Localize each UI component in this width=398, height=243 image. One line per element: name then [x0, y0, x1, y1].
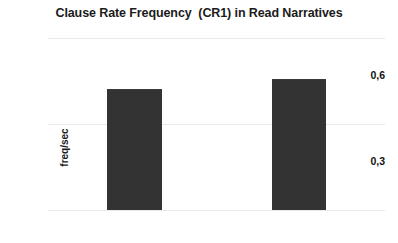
plot-area: 0 0,3 0,6 freq/sec Depressed Control	[48, 38, 385, 211]
gridline-0-6	[48, 38, 385, 39]
y-axis-title: freq/sec	[59, 118, 70, 178]
page-title: Clause Rate Frequency (CR1) in Read Narr…	[0, 6, 398, 20]
y-axis-tick-label-1: 0,3	[341, 156, 385, 167]
y-axis-tick-label-2: 0,6	[341, 70, 385, 81]
chart-screenshot: Clause Rate Frequency (CR1) in Read Narr…	[0, 0, 398, 243]
bar-depressed	[107, 89, 162, 210]
gridline-0-3	[48, 124, 385, 125]
gridline-zero	[48, 210, 385, 211]
bar-control	[272, 79, 326, 210]
